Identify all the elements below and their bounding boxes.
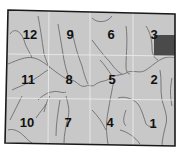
section-label-5: 5 <box>108 72 115 87</box>
section-label-9: 9 <box>66 27 73 42</box>
section-label-1: 1 <box>149 116 156 131</box>
section-label-12: 12 <box>23 27 37 42</box>
grid-map: 12 9 6 3 11 8 5 2 10 7 4 1 <box>0 0 182 155</box>
section-label-2: 2 <box>150 72 157 87</box>
section-label-8: 8 <box>65 72 72 87</box>
section-label-7: 7 <box>64 115 71 130</box>
section-label-11: 11 <box>21 72 35 87</box>
section-label-10: 10 <box>20 115 34 130</box>
section-label-4: 4 <box>106 115 114 130</box>
section-label-3: 3 <box>150 27 157 42</box>
section-label-6: 6 <box>107 27 114 42</box>
